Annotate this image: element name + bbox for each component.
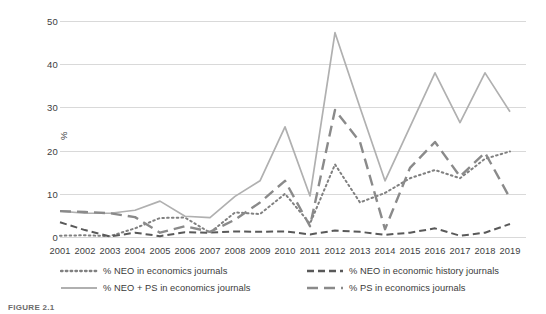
series-svg [48,14,526,244]
x-axis-tick-label: 2017 [449,246,470,256]
legend-item[interactable]: % PS in economics journals [306,283,530,293]
legend-item[interactable]: % NEO + PS in economics journals [60,283,306,293]
series-line [60,222,510,236]
legend-swatch-dotted [60,266,98,276]
figure-caption: FIGURE 2.1 [8,303,55,312]
series-line [60,33,510,218]
x-axis-tick-label: 2018 [474,246,495,256]
x-axis-tick-label: 2016 [424,246,445,256]
legend-item[interactable]: % NEO in economics journals [60,266,306,276]
x-axis-tick-label: 2015 [399,246,420,256]
x-axis-tick-labels: 2001200220032004200520062007200820092010… [60,246,526,260]
x-axis-tick-label: 2013 [349,246,370,256]
y-axis-label: % [58,132,69,140]
series-line [60,151,510,236]
legend-label: % NEO + PS in economics journals [103,283,251,293]
chart-legend: % NEO in economics journals% NEO in econ… [60,262,530,296]
legend-label: % PS in economics journals [349,283,466,293]
chart-series-group [48,14,526,244]
legend-swatch-longdash [306,283,344,293]
x-axis-tick-label: 2004 [124,246,145,256]
x-axis-tick-label: 2002 [74,246,95,256]
x-axis-tick-label: 2001 [49,246,70,256]
x-axis-tick-label: 2009 [249,246,270,256]
x-axis-tick-label: 2005 [149,246,170,256]
x-axis-tick-label: 2007 [199,246,220,256]
legend-swatch-solid [60,283,98,293]
chart-plot-area: 01020304050 % [48,14,526,244]
x-axis-tick-label: 2012 [324,246,345,256]
figure-container: 01020304050 % 20012002200320042005200620… [0,0,546,314]
legend-item[interactable]: % NEO in economic history journals [306,266,530,276]
x-axis-tick-label: 2008 [224,246,245,256]
legend-label: % NEO in economics journals [103,266,227,276]
x-axis-tick-label: 2011 [300,246,320,256]
x-axis-tick-label: 2019 [499,246,520,256]
legend-label: % NEO in economic history journals [349,266,499,276]
x-axis-tick-label: 2006 [174,246,195,256]
legend-swatch-dashed [306,266,344,276]
x-axis-tick-label: 2003 [99,246,120,256]
x-axis-tick-label: 2014 [374,246,395,256]
x-axis-tick-label: 2010 [274,246,295,256]
